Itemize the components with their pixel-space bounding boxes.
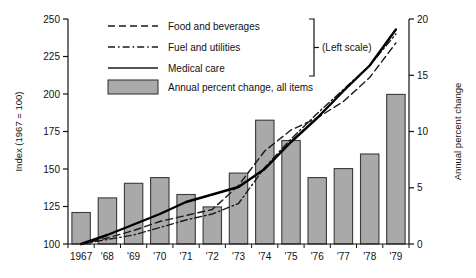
x-label-76: '76 — [311, 251, 324, 262]
right-tick-label-5: 5 — [417, 182, 423, 193]
left-scale-note: (Left scale) — [322, 42, 371, 53]
left-tick-label-125: 125 — [43, 201, 60, 212]
bar-72[interactable] — [203, 207, 221, 244]
left-scale-bracket — [309, 19, 314, 76]
legend-label-1: Fuel and utilities — [168, 42, 240, 53]
left-tick-label-200: 200 — [43, 89, 60, 100]
x-label-69: '69 — [127, 251, 140, 262]
right-tick-label-15: 15 — [417, 70, 429, 81]
right-axis-title: Annual percent change — [452, 83, 463, 181]
bar-74[interactable] — [256, 120, 274, 244]
left-axis-title: Index (1967 = 100) — [13, 91, 24, 171]
x-label-68: '68 — [101, 251, 114, 262]
left-tick-label-225: 225 — [43, 51, 60, 62]
bar-77[interactable] — [334, 169, 352, 244]
x-label-1967: 1967 — [70, 251, 93, 262]
left-tick-label-150: 150 — [43, 164, 60, 175]
legend-swatch-gray-box-swatch — [108, 80, 158, 94]
right-tick-label-20: 20 — [417, 14, 429, 25]
x-label-79: '79 — [389, 251, 402, 262]
bar-75[interactable] — [282, 141, 300, 245]
left-tick-label-175: 175 — [43, 126, 60, 137]
x-label-71: '71 — [179, 251, 192, 262]
x-label-78: '78 — [363, 251, 376, 262]
x-label-70: '70 — [153, 251, 166, 262]
x-label-75: '75 — [284, 251, 297, 262]
legend-label-0: Food and beverages — [168, 21, 260, 32]
legend-label-2: Medical care — [168, 63, 225, 74]
bar-78[interactable] — [361, 154, 379, 244]
right-tick-label-10: 10 — [417, 126, 429, 137]
x-label-77: '77 — [337, 251, 350, 262]
left-tick-label-100: 100 — [43, 239, 60, 250]
right-tick-label-0: 0 — [417, 239, 423, 250]
chart-figure: 100125150175200225250051015201967'68'69'… — [0, 0, 476, 278]
bar-1967[interactable] — [72, 213, 90, 245]
x-label-72: '72 — [206, 251, 219, 262]
legend-label-3: Annual percent change, all items — [168, 82, 313, 93]
x-label-73: '73 — [232, 251, 245, 262]
left-tick-label-250: 250 — [43, 14, 60, 25]
cpi-index-chart: 100125150175200225250051015201967'68'69'… — [0, 0, 476, 278]
x-label-74: '74 — [258, 251, 271, 262]
bar-76[interactable] — [308, 178, 326, 244]
bar-79[interactable] — [387, 94, 405, 244]
